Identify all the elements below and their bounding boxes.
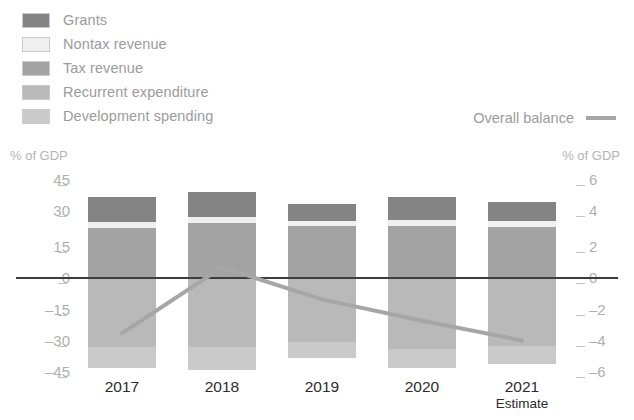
legend-item-recurrent-expenditure: Recurrent expenditure (22, 80, 213, 104)
legend-swatch-tax-revenue (22, 61, 50, 76)
legend-item-nontax-revenue: Nontax revenue (22, 32, 213, 56)
left-axis-tick-mark (58, 377, 67, 378)
x-axis-sublabel: Estimate (472, 396, 572, 411)
legend-item-development-spending: Development spending (22, 104, 213, 128)
plot-area: 45 30 15 0 –15 –30 –45 6 4 2 0 –2 –4 –6 (0, 170, 634, 370)
legend-swatch-development-spending (22, 109, 50, 124)
right-axis-caption: % of GDP (562, 148, 620, 163)
legend-line-swatch-overall-balance (586, 116, 616, 120)
legend-item-overall-balance: Overall balance (473, 110, 616, 126)
legend-label-development-spending: Development spending (63, 108, 213, 124)
legend: Grants Nontax revenue Tax revenue Recurr… (22, 8, 213, 128)
legend-label-overall-balance: Overall balance (473, 110, 574, 126)
x-axis-label: 2019 (272, 378, 372, 396)
legend-item-tax-revenue: Tax revenue (22, 56, 213, 80)
legend-item-grants: Grants (22, 8, 213, 32)
legend-swatch-nontax-revenue (22, 37, 50, 52)
overall-balance-line (0, 170, 634, 370)
x-axis-labels: 20172018201920202021Estimate (72, 378, 572, 418)
overall-balance-polyline (122, 267, 522, 340)
legend-label-tax-revenue: Tax revenue (63, 60, 143, 76)
legend-swatch-grants (22, 13, 50, 28)
right-axis-tick-mark (576, 377, 585, 378)
x-axis-label: 2021 (472, 378, 572, 396)
legend-label-nontax-revenue: Nontax revenue (63, 36, 167, 52)
legend-label-grants: Grants (63, 12, 107, 28)
x-axis-label: 2020 (372, 378, 472, 396)
left-axis-caption: % of GDP (10, 148, 68, 163)
x-axis-label: 2017 (72, 378, 172, 396)
x-axis-label: 2018 (172, 378, 272, 396)
legend-swatch-recurrent-expenditure (22, 85, 50, 100)
legend-label-recurrent-expenditure: Recurrent expenditure (63, 84, 209, 100)
